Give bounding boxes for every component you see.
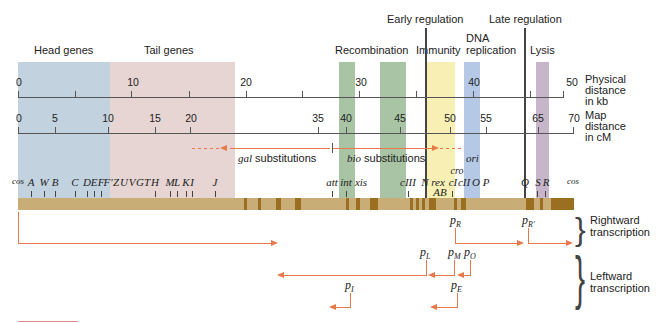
map-tick-65: 65 [532, 112, 544, 124]
scale-line [18, 321, 78, 322]
promoter-subscript: M [454, 252, 461, 261]
track-segment [540, 198, 543, 210]
pI-stem [350, 293, 351, 307]
promoter-pR: pR [450, 213, 461, 229]
map-tick-40: 40 [340, 112, 352, 124]
promoter-subscript: R [456, 220, 461, 229]
gene-E: E [91, 176, 98, 188]
map-tick-10: 10 [102, 112, 114, 124]
track-segment [454, 198, 457, 210]
axis-tick [302, 91, 303, 98]
gal-italic: gal [238, 152, 252, 164]
pE-stem [457, 293, 458, 307]
track-segment [429, 198, 436, 210]
immunity-label: Immunity [416, 44, 461, 56]
axis-tick [18, 127, 19, 134]
gene-tick [101, 191, 102, 197]
gene-cos-right: cos [567, 176, 579, 186]
axis-tick [573, 127, 574, 134]
map-tick-55: 55 [480, 112, 492, 124]
pM-transcript [433, 275, 455, 276]
pL-stem [426, 260, 427, 275]
leftward-label-2: transcription [590, 282, 650, 294]
arrowhead-left [277, 272, 284, 278]
recombination-label: Recombination [335, 44, 408, 56]
gene-tick [55, 191, 56, 197]
physical-distance-axis [18, 97, 564, 98]
promoter-pI: pI [345, 278, 354, 294]
gene-cIII: cIII [400, 176, 416, 188]
late-regulation-label: Late regulation [489, 13, 562, 25]
map-tick-45: 45 [394, 112, 406, 124]
pE-transcript [436, 307, 458, 308]
pI-transcript [335, 307, 351, 308]
promoter-subscript: I [351, 285, 354, 294]
gene-tick [332, 191, 333, 197]
promoter-pE: pE [451, 278, 462, 294]
arrowhead-right [517, 240, 524, 246]
gene-K: K [182, 176, 189, 188]
gene-tick [155, 191, 156, 197]
axis-tick [55, 127, 56, 134]
promoter-pL: pL [420, 245, 430, 261]
track-segment [295, 198, 301, 210]
ori-label: ori [466, 152, 479, 164]
axis-tick [189, 91, 190, 98]
gene-tick [215, 191, 216, 197]
gene-tick [75, 191, 76, 197]
gene-N: N [421, 176, 428, 188]
gene-H: H [151, 176, 159, 188]
physical-tick-30: 30 [355, 76, 367, 88]
physical-tick-50: 50 [566, 76, 578, 88]
rightward-transcript-1 [18, 243, 273, 244]
rightward-label-2: transcription [590, 226, 650, 238]
pO-stem [470, 260, 471, 275]
head-genes-label: Head genes [34, 44, 93, 56]
bio-substitution-dashed [440, 148, 464, 149]
track-segment [244, 198, 247, 210]
track-segment [370, 198, 378, 210]
gene-W: W [39, 176, 48, 188]
gene-O: O [472, 176, 480, 188]
arrowhead-left [430, 304, 437, 310]
axis-tick [131, 91, 132, 98]
axis-tick [530, 91, 531, 98]
map-tick-0: 0 [16, 112, 22, 124]
replication-label: replication [466, 44, 516, 56]
map-tick-15: 15 [149, 112, 161, 124]
gene-tick [452, 191, 453, 197]
map-axis-label-3: in cM [585, 131, 611, 143]
axis-tick [108, 127, 109, 134]
axis-tick [190, 127, 191, 134]
axis-tick [155, 127, 156, 134]
late-regulation-line [524, 28, 526, 198]
gene-tick [44, 191, 45, 197]
promoter-pR-prime: pR′ [522, 213, 535, 229]
gene-cro: cro [451, 165, 464, 176]
track-segment [356, 198, 360, 210]
bio-text: substitutions [361, 152, 425, 164]
physical-tick-10: 10 [127, 76, 139, 88]
track-segment [276, 198, 281, 210]
axis-tick [538, 127, 539, 134]
gene-S: S [535, 176, 541, 188]
axis-tick [473, 91, 474, 98]
bio-substitutions-label: bio substitutions [347, 152, 425, 164]
gene-xis: xis [355, 176, 367, 188]
gene-tick [545, 191, 546, 197]
pR-transcript [455, 243, 522, 244]
gene-att: att [326, 176, 338, 188]
map-tick-5: 5 [52, 112, 58, 124]
gene-L: L [174, 176, 180, 188]
gene-F-prime: F' [103, 176, 112, 188]
gene-P: P [483, 176, 490, 188]
gene-rexAB: AB [433, 186, 446, 198]
axis-tick [400, 127, 401, 134]
physical-tick-0: 0 [16, 76, 22, 88]
gene-cos-left: cos [12, 176, 24, 186]
track-segment [346, 198, 349, 210]
early-regulation-line [425, 28, 427, 198]
axis-tick [563, 91, 564, 98]
pO-transcript [463, 275, 471, 276]
genome-track [18, 198, 574, 210]
